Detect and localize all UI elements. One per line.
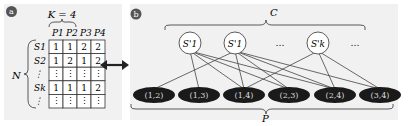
matrix-cell: 1 [53,56,59,66]
row-label: Sk [34,83,46,93]
ellipsis: … [276,38,285,48]
svg-text:S'1: S'1 [228,39,242,49]
matrix-cell: ⋮ [80,96,89,106]
svg-text:S'1: S'1 [183,39,197,49]
matrix-cell: ⋮ [94,69,103,79]
svg-text:(3,4): (3,4) [371,91,390,100]
p-label: P [261,113,269,124]
column-header: P3 [79,28,92,38]
diagram-canvas: K = 4 P1P2P3P4 S11122S21212⋮⋮⋮⋮⋮Sk1112⋮⋮… [0,0,420,126]
matrix-cell: 1 [81,83,87,93]
panel-b-badge: b [133,10,138,19]
column-header: P2 [65,28,78,38]
svg-text:(2,4): (2,4) [326,91,345,100]
matrix-cell: ⋮ [52,96,61,106]
row-label: S2 [34,56,46,66]
k-label: K = 4 [47,9,77,20]
matrix-cell: 1 [81,56,87,66]
svg-text:(1,3): (1,3) [190,91,209,100]
column-header: P1 [51,28,64,38]
matrix-cell: ⋮ [66,69,75,79]
c-label: C [270,7,278,18]
matrix-cell: 2 [95,56,101,66]
matrix-cell: 2 [95,83,101,93]
svg-text:(1,4): (1,4) [235,91,254,100]
matrix-cell: ⋮ [94,96,103,106]
svg-text:S'k: S'k [311,39,325,49]
matrix-cell: ⋮ [52,69,61,79]
matrix-cell: 1 [67,83,73,93]
svg-text:(2,3): (2,3) [280,91,299,100]
row-label: ⋮ [34,96,43,106]
matrix-cell: 2 [95,42,101,52]
row-label: S1 [34,42,46,52]
ellipsis: … [351,38,360,48]
column-header: P4 [93,28,106,38]
matrix-cell: 2 [81,42,87,52]
row-label: ⋮ [34,69,43,79]
n-label: N [11,70,22,81]
matrix-cell: 1 [53,83,59,93]
matrix-cell: 2 [67,56,73,66]
matrix-cell: 1 [53,42,59,52]
matrix-cell: 1 [67,42,73,52]
matrix-cell: ⋮ [66,96,75,106]
svg-text:(1,2): (1,2) [145,91,164,100]
matrix-cell: ⋮ [80,69,89,79]
